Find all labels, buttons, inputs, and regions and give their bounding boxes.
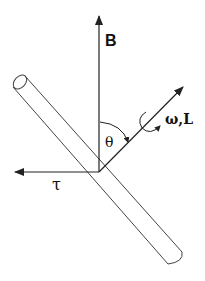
diagram-svg: [0, 0, 205, 281]
torque-label: τ: [52, 177, 61, 193]
rotation-curl-icon: [140, 112, 160, 132]
diagram-canvas: B ω,L θ τ: [0, 0, 205, 281]
b-field-label: B: [105, 33, 117, 49]
omega-l-arrow-icon: [99, 87, 183, 172]
rod: [11, 72, 183, 264]
theta-label: θ: [105, 135, 113, 149]
omega-l-label: ω,L: [165, 112, 193, 126]
rod-bottom-end-icon: [168, 252, 182, 264]
rod-top-end-icon: [11, 72, 30, 91]
